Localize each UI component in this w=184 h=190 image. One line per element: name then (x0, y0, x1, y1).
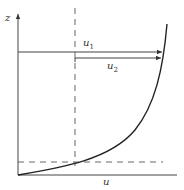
velocity-profile-diagram (0, 0, 184, 190)
z-axis-label: z (5, 13, 10, 23)
u1-label: u1 (83, 38, 94, 51)
u-axis-label: u (103, 177, 109, 187)
u2-label: u2 (107, 61, 118, 74)
u2-arrow (75, 58, 161, 62)
